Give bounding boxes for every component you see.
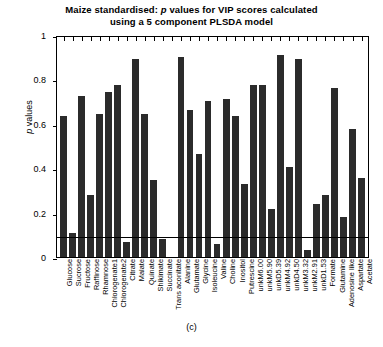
chart-title-line1: Maize standardised: p values for VIP sco… <box>65 4 317 15</box>
bar <box>187 110 194 257</box>
x-axis-label-slot: Chlorogenate1 <box>103 259 112 321</box>
bar <box>105 92 112 257</box>
bar <box>205 101 212 257</box>
x-axis-label-slot: Glutamate <box>185 259 194 321</box>
bar <box>313 204 320 257</box>
bar <box>196 154 203 257</box>
x-axis-label-slot: Formate <box>322 259 331 321</box>
y-axis-tick-mark <box>53 170 57 171</box>
x-axis-label-slot: Malate <box>131 259 140 321</box>
y-axis-tick-label: 1 <box>16 32 46 41</box>
bar <box>87 195 94 257</box>
x-axis-label-slot: unkM4.92 <box>276 259 285 321</box>
figure-caption: (c) <box>0 322 383 332</box>
x-axis-label-slot: Raffinose <box>85 259 94 321</box>
x-axis-labels: GlucoseSucroseFructoseRaffinoseRhamnoseC… <box>56 259 369 321</box>
x-axis-label-slot: Quinate <box>140 259 149 321</box>
x-axis-label-slot: Alanine <box>176 259 185 321</box>
x-axis-label-slot: Succinate <box>158 259 167 321</box>
chart-title: Maize standardised: p values for VIP sco… <box>0 4 383 28</box>
y-axis-tick-label: 0.4 <box>16 165 46 174</box>
bar <box>331 88 338 257</box>
x-axis-label-slot: Isoleucine <box>204 259 213 321</box>
bar <box>358 178 365 257</box>
bar <box>214 244 221 257</box>
y-axis-label: p values <box>24 82 34 152</box>
x-axis-label-slot: Fructose <box>76 259 85 321</box>
y-axis-tick-label: 0.8 <box>16 76 46 85</box>
x-axis-label-slot: Adenosine like <box>340 259 349 321</box>
x-axis-tick-label: Acetate <box>366 259 374 284</box>
x-axis-label-slot: unkD1.53 <box>313 259 322 321</box>
bar <box>159 239 166 257</box>
bar <box>141 114 148 257</box>
y-axis-tick-mark <box>53 215 57 216</box>
bar <box>268 209 275 257</box>
bar <box>286 167 293 257</box>
significance-threshold-line <box>57 237 368 238</box>
bar <box>304 250 311 257</box>
x-axis-label-slot: unkM3.32 <box>294 259 303 321</box>
y-axis-tick-mark <box>53 81 57 82</box>
x-axis-label-slot: unkM5.90 <box>258 259 267 321</box>
figure-panel: Maize standardised: p values for VIP sco… <box>0 0 383 347</box>
x-axis-label-slot: Choline <box>222 259 231 321</box>
title-prefix: Maize standardised: <box>65 4 160 15</box>
x-axis-label-slot: Chlorogenate2 <box>113 259 122 321</box>
x-axis-label-slot: unkD5.39 <box>267 259 276 321</box>
bar <box>295 59 302 257</box>
bar <box>150 180 157 257</box>
x-axis-label-slot: Glucose <box>58 259 67 321</box>
bar <box>178 57 185 257</box>
bar <box>132 59 139 257</box>
x-axis-label-slot: Acetate <box>358 259 367 321</box>
y-axis-tick-label: 0 <box>16 254 46 263</box>
bar <box>223 99 230 257</box>
bar <box>114 85 121 257</box>
x-axis-label-slot: Trans aconitate <box>167 259 176 321</box>
x-axis-label-slot: Valine <box>213 259 222 321</box>
bar <box>96 114 103 257</box>
title-suffix: values for VIP scores calculated <box>167 4 318 15</box>
y-axis-tick-label: 0.2 <box>16 210 46 219</box>
x-axis-label-slot: Rhamnose <box>94 259 103 321</box>
x-axis-label-slot: Sucrose <box>67 259 76 321</box>
y-axis-tick-mark <box>53 126 57 127</box>
plot-area: 00.20.40.60.81 <box>56 36 369 258</box>
bar <box>277 55 284 257</box>
bar <box>123 242 130 257</box>
bars-layer <box>57 37 368 257</box>
chart-title-line2: using a 5 component PLSDA model <box>110 16 273 27</box>
x-axis-label-slot: unkD4.50 <box>285 259 294 321</box>
x-axis-label-slot: Glutamine <box>331 259 340 321</box>
x-axis-label-slot: Glycine <box>194 259 203 321</box>
bar <box>322 195 329 257</box>
y-axis-tick-label: 0.6 <box>16 121 46 130</box>
bar <box>259 85 266 257</box>
bar <box>250 85 257 257</box>
x-axis-label-slot: Shikimate <box>149 259 158 321</box>
x-axis-label-slot: Aspartate <box>349 259 358 321</box>
x-axis-label-slot: unkM6.00 <box>249 259 258 321</box>
bar <box>349 129 356 257</box>
bar <box>241 184 248 257</box>
bar <box>78 96 85 257</box>
y-axis-tick-mark <box>53 37 57 38</box>
x-axis-label-slot: Citrate <box>122 259 131 321</box>
x-axis-label-slot: Inositol <box>231 259 240 321</box>
x-axis-label-slot: unkM2.91 <box>304 259 313 321</box>
x-axis-label-slot: Putrescine <box>240 259 249 321</box>
